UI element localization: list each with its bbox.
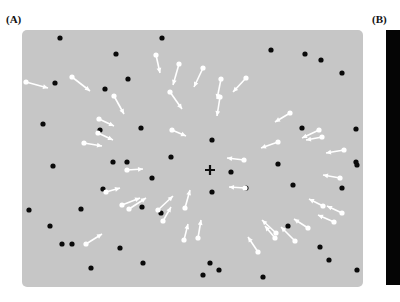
motion-vector-arrow (111, 93, 124, 114)
motion-vector-arrow (261, 139, 281, 148)
motion-vector-arrow (181, 224, 189, 243)
stationary-dot (354, 267, 359, 272)
motion-vector-arrow (326, 147, 347, 154)
stationary-dot (159, 35, 164, 40)
stationary-dot (40, 121, 45, 126)
stationary-dot (168, 154, 173, 159)
flow-field-canvas (22, 30, 363, 287)
panel-a-label: (A) (6, 13, 21, 25)
motion-vector-arrow (318, 215, 337, 225)
motion-vector-arrow (248, 237, 261, 255)
motion-vector-arrow (182, 190, 191, 211)
stationary-dot (216, 267, 221, 272)
stationary-dot (140, 260, 145, 265)
motion-vector-arrow (81, 140, 102, 147)
motion-vector-arrow (233, 75, 249, 92)
stationary-dot (57, 35, 62, 40)
motion-vector-arrow (194, 65, 206, 87)
motion-vector-arrow (124, 167, 143, 173)
stationary-dot (285, 223, 290, 228)
stationary-dot (299, 125, 304, 130)
stationary-dot (268, 47, 273, 52)
optic-flow-panel (22, 30, 363, 287)
motion-vector-arrow (275, 110, 293, 122)
stationary-dot (69, 241, 74, 246)
stationary-dot (339, 70, 344, 75)
motion-vector-arrow (103, 187, 120, 195)
stationary-dot (318, 57, 323, 62)
stationary-dot (317, 244, 322, 249)
motion-vector-arrow (227, 156, 247, 162)
motion-vector-arrow (294, 219, 311, 231)
stationary-dot (59, 241, 64, 246)
stationary-dot (353, 159, 358, 164)
stationary-dot (326, 257, 331, 262)
motion-vector-arrow (96, 116, 114, 126)
motion-vector-arrow (23, 79, 48, 89)
stationary-dot (260, 274, 265, 279)
motion-vector-arrow (119, 198, 140, 208)
motion-vector-arrow (323, 174, 343, 181)
stationary-dot (207, 260, 212, 265)
motion-vector-arrow (169, 127, 186, 136)
stationary-dot (139, 204, 144, 209)
motion-vector-arrow (167, 89, 182, 109)
stationary-dot (78, 206, 83, 211)
stationary-dot (200, 272, 205, 277)
stationary-dot (302, 51, 307, 56)
stationary-dot (26, 207, 31, 212)
stationary-dot (47, 223, 52, 228)
stationary-dot (149, 175, 154, 180)
stationary-dot (339, 185, 344, 190)
focus-of-expansion-marker (205, 165, 215, 175)
motion-vector-arrow (83, 234, 102, 247)
motion-vector-arrow (95, 130, 113, 140)
stationary-dot (353, 126, 358, 131)
black-panel (386, 30, 400, 285)
stationary-dot (117, 245, 122, 250)
motion-vector-arrow (69, 74, 90, 91)
motion-vector-arrow (309, 199, 326, 209)
motion-vector-arrow (327, 206, 345, 216)
stationary-dot (102, 86, 107, 91)
stationary-dot (209, 189, 214, 194)
panel-b-label: (B) (372, 13, 387, 25)
stationary-dot (50, 163, 55, 168)
stationary-dot (275, 161, 280, 166)
stationary-dot (138, 125, 143, 130)
motion-vector-arrow (195, 220, 202, 241)
motion-vector-arrow (281, 227, 298, 244)
stationary-dot (88, 265, 93, 270)
stationary-dot (290, 182, 295, 187)
stationary-dot (228, 169, 233, 174)
motion-vector-arrow (153, 52, 161, 73)
stationary-dot (209, 137, 214, 142)
stationary-dot (52, 80, 57, 85)
stationary-dot (113, 51, 118, 56)
motion-vector-arrow (172, 61, 182, 85)
stationary-dot (124, 159, 129, 164)
motion-vector-arrow (302, 127, 322, 138)
stationary-dot (110, 159, 115, 164)
motion-vector-arrow (229, 185, 248, 191)
stationary-dot (125, 76, 130, 81)
